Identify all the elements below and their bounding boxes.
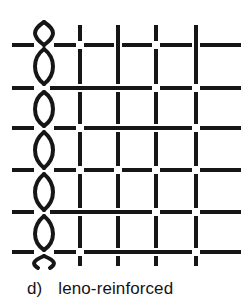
figure-caption: d) leno-reinforced [0, 272, 252, 306]
leno-weave-diagram [0, 0, 252, 272]
caption-text: leno-reinforced [58, 279, 173, 299]
caption-label: d) [0, 279, 42, 299]
figure-leno-reinforced: d) leno-reinforced [0, 0, 252, 306]
